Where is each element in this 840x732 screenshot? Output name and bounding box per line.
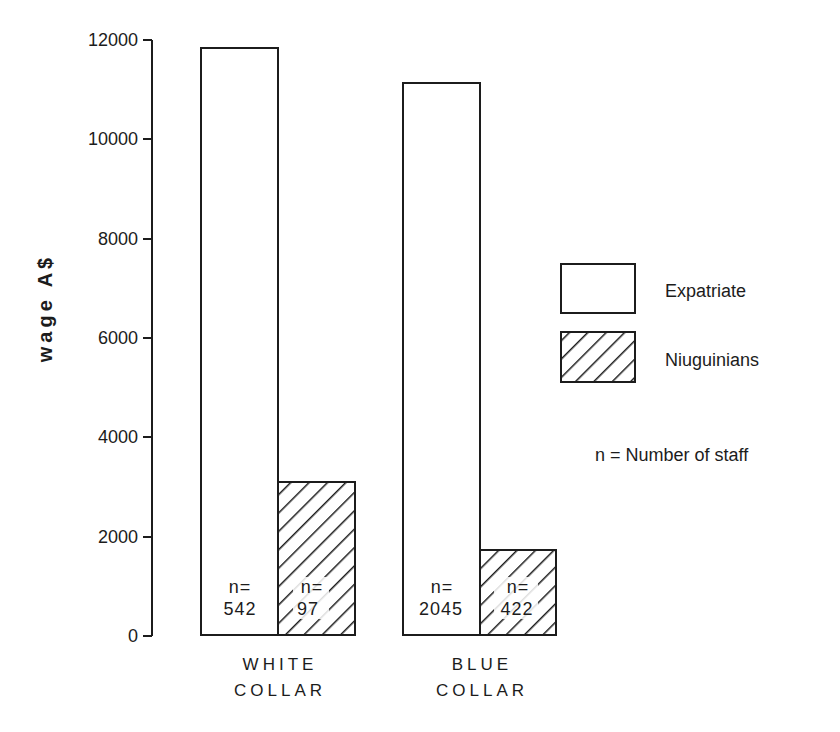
bar-group-white-collar: n= 542 n= 97 [201,48,355,635]
n-value: 542 [223,599,256,619]
x-axis-labels: WHITE COLLAR BLUE COLLAR [234,655,528,700]
category-label: COLLAR [436,681,528,700]
n-label: n= [229,577,252,597]
bar-group-blue-collar: n= 2045 n= 422 [403,83,556,635]
y-tick-label: 0 [128,626,138,646]
category-label: WHITE [243,655,318,674]
legend-label-expatriate: Expatriate [665,281,746,301]
n-label: n= [431,577,454,597]
y-tick-label: 4000 [98,427,138,447]
n-label: n= [301,577,324,597]
n-label: n= [507,577,530,597]
y-axis: 12000 10000 8000 6000 4000 2000 0 wage A… [34,30,152,646]
n-value: 2045 [419,599,463,619]
bar-chart: 12000 10000 8000 6000 4000 2000 0 wage A… [0,0,840,732]
category-label: COLLAR [234,681,326,700]
bar-expatriate-blue-collar [403,83,480,635]
category-label: BLUE [452,655,512,674]
legend: Expatriate Niuguinians n = Number of sta… [561,264,759,465]
y-tick-label: 6000 [98,328,138,348]
y-tick-label: 8000 [98,229,138,249]
legend-label-niuguinians: Niuguinians [665,350,759,370]
n-value: 97 [297,599,319,619]
legend-swatch-niuguinians [561,332,635,382]
legend-note: n = Number of staff [595,445,749,465]
legend-swatch-expatriate [561,264,635,313]
bar-expatriate-white-collar [201,48,278,635]
n-value: 422 [500,599,533,619]
y-tick-label: 2000 [98,527,138,547]
y-axis-label: wage A$ [34,254,56,363]
y-tick-label: 12000 [88,30,138,50]
y-tick-label: 10000 [88,129,138,149]
